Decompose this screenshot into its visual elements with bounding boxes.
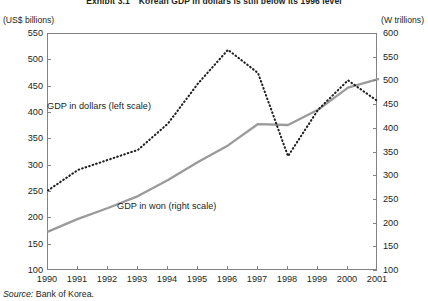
x-axis-tick-mark	[167, 266, 168, 270]
series-line-gdp-dollars	[48, 50, 378, 191]
x-axis-tick: 2001	[367, 274, 387, 284]
x-axis-tick-mark	[137, 266, 138, 270]
source-note: Source: Bank of Korea.	[3, 289, 94, 299]
right-axis-tick-mark	[373, 80, 377, 81]
right-axis-tick-mark	[373, 199, 377, 200]
x-axis-tick: 1997	[247, 274, 267, 284]
right-axis-tick: 150	[383, 241, 398, 251]
right-axis-tick-mark	[373, 223, 377, 224]
right-axis-tick: 200	[383, 218, 398, 228]
right-axis-tick: 300	[383, 170, 398, 180]
right-axis-tick: 450	[383, 99, 398, 109]
x-axis-tick-mark	[287, 266, 288, 270]
exhibit-figure: Exhibit 3.1Korean GDP in dollars is stil…	[0, 0, 428, 301]
left-axis-tick: 150	[28, 239, 43, 249]
left-axis-tick: 350	[28, 133, 43, 143]
x-axis-tick-mark	[317, 266, 318, 270]
x-axis-tick: 2000	[337, 274, 357, 284]
right-axis-tick: 400	[383, 123, 398, 133]
left-axis-tick: 300	[28, 160, 43, 170]
left-axis-tick-mark	[47, 59, 51, 60]
right-axis-tick: 500	[383, 75, 398, 85]
right-axis-tick-mark	[373, 270, 377, 271]
x-axis-tick-labels: 1990199119921993199419951996199719981999…	[0, 274, 428, 288]
right-axis-tick-mark	[373, 175, 377, 176]
left-axis-tick-mark	[47, 217, 51, 218]
x-axis-tick: 1996	[217, 274, 237, 284]
left-axis-tick: 450	[28, 81, 43, 91]
x-axis-tick-mark	[257, 266, 258, 270]
annotation-gdp-won: GDP in won (right scale)	[117, 201, 216, 211]
x-axis-tick: 1990	[37, 274, 57, 284]
x-axis-tick-mark	[107, 266, 108, 270]
left-axis-tick: 200	[28, 212, 43, 222]
x-axis-tick: 1995	[187, 274, 207, 284]
right-axis-tick-mark	[373, 57, 377, 58]
right-axis-tick-mark	[373, 104, 377, 105]
right-axis-tick-mark	[373, 152, 377, 153]
left-axis-tick: 550	[28, 28, 43, 38]
x-axis-tick: 1993	[127, 274, 147, 284]
right-axis-tick: 350	[383, 147, 398, 157]
plot-area	[47, 33, 377, 270]
right-axis-unit-label: (W trillions)	[381, 15, 424, 25]
x-axis-tick-mark	[197, 266, 198, 270]
right-axis-tick: 550	[383, 52, 398, 62]
exhibit-title-text: Korean GDP in dollars is still below its…	[139, 0, 342, 6]
left-axis-tick-mark	[47, 244, 51, 245]
left-axis-unit-label: (US$ billions)	[3, 15, 54, 25]
annotation-gdp-dollars: GDP in dollars (left scale)	[47, 101, 151, 111]
right-axis-tick: 600	[383, 28, 398, 38]
x-axis-tick: 1998	[277, 274, 297, 284]
right-axis-tick: 250	[383, 194, 398, 204]
x-axis-tick: 1994	[157, 274, 177, 284]
x-axis-tick: 1991	[67, 274, 87, 284]
source-text: Bank of Korea.	[36, 289, 94, 299]
left-axis-tick-mark	[47, 112, 51, 113]
left-axis-tick-mark	[47, 191, 51, 192]
left-axis-tick-mark	[47, 165, 51, 166]
left-axis-tick-mark	[47, 86, 51, 87]
x-axis-tick: 1992	[97, 274, 117, 284]
left-axis-tick-mark	[47, 138, 51, 139]
right-axis-tick-mark	[373, 128, 377, 129]
right-axis-tick-mark	[373, 246, 377, 247]
left-axis-tick: 500	[28, 54, 43, 64]
left-axis-tick: 400	[28, 107, 43, 117]
x-axis-tick-mark	[227, 266, 228, 270]
page-title: Exhibit 3.1Korean GDP in dollars is stil…	[0, 0, 428, 8]
source-word: Source:	[3, 289, 33, 299]
exhibit-number: Exhibit 3.1	[86, 0, 130, 6]
left-axis-tick: 250	[28, 186, 43, 196]
x-axis-tick: 1999	[307, 274, 327, 284]
x-axis-tick-mark	[77, 266, 78, 270]
chart-canvas	[48, 34, 378, 271]
x-axis-tick-mark	[347, 266, 348, 270]
